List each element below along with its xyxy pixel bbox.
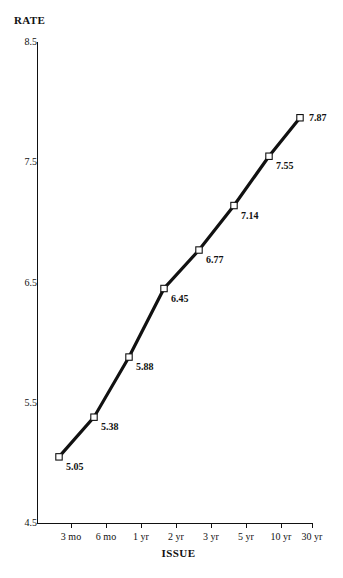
data-point-marker (56, 454, 62, 460)
data-point-marker (91, 414, 97, 420)
data-point-label: 6.77 (206, 255, 224, 265)
yield-curve-chart: RATE 8.57.56.55.54.5 3 mo6 mo1 yr2 yr3 y… (0, 0, 343, 578)
series-marker-group (56, 115, 303, 461)
data-point-marker (126, 354, 132, 360)
data-point-marker (266, 153, 272, 159)
data-point-label: 6.45 (171, 294, 189, 304)
x-axis-title-text: ISSUE (162, 547, 196, 559)
data-point-label: 7.87 (309, 113, 327, 123)
plot-area (0, 0, 343, 578)
data-point-marker (297, 115, 303, 121)
series-line (59, 118, 300, 457)
data-point-marker (231, 202, 237, 208)
data-point-label: 7.55 (276, 161, 294, 171)
data-point-label: 5.38 (101, 422, 119, 432)
data-point-label: 7.14 (241, 211, 259, 221)
data-point-marker (196, 247, 202, 253)
data-point-label: 5.05 (66, 462, 84, 472)
data-point-label: 5.88 (136, 362, 154, 372)
x-axis-title: ISSUE (0, 547, 343, 559)
data-point-marker (161, 285, 167, 291)
